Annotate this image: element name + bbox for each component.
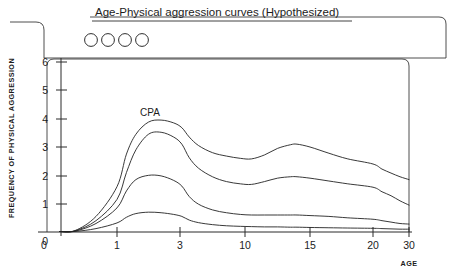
legend-circle-3 bbox=[119, 34, 132, 47]
x-tick-label-0: 0 bbox=[41, 239, 47, 251]
y-tick-label-1: 1 bbox=[42, 198, 48, 210]
curve-series-group bbox=[60, 120, 409, 232]
legend-circle-4 bbox=[136, 34, 149, 47]
cpa-curve-label: CPA bbox=[140, 107, 160, 118]
x-tick-label-10: 10 bbox=[239, 239, 251, 251]
legend-circle-1 bbox=[85, 34, 98, 47]
x-tick-label-30: 30 bbox=[403, 239, 415, 251]
y-tick-label-3: 3 bbox=[42, 141, 48, 153]
title-callout-frame bbox=[10, 17, 446, 58]
chart-figure: Age-Physical aggression curves (Hypothes… bbox=[0, 0, 452, 273]
y-tick-label-2: 2 bbox=[42, 170, 48, 182]
x-tick-label-20: 20 bbox=[367, 239, 379, 251]
x-tick-label-1: 1 bbox=[114, 239, 120, 251]
chart-title: Age-Physical aggression curves (Hypothes… bbox=[95, 6, 339, 18]
x-axis-title: AGE bbox=[401, 259, 418, 268]
y-tick-label-5: 5 bbox=[42, 84, 48, 96]
x-tick-label-15: 15 bbox=[304, 239, 316, 251]
curve-series-2 bbox=[60, 175, 409, 232]
y-tick-label-4: 4 bbox=[42, 113, 48, 125]
curve-series-0 bbox=[60, 120, 409, 232]
y-tick-label-6: 6 bbox=[42, 56, 48, 68]
y-axis-title: FREQUENCY OF PHYSICAL AGGRESSION bbox=[7, 58, 16, 218]
x-tick-label-3: 3 bbox=[177, 239, 183, 251]
plot-frame bbox=[47, 59, 409, 232]
legend-circle-2 bbox=[102, 34, 115, 47]
curve-series-1 bbox=[60, 132, 409, 232]
chart-svg: Age-Physical aggression curves (Hypothes… bbox=[0, 0, 452, 273]
curve-series-3 bbox=[60, 212, 409, 232]
